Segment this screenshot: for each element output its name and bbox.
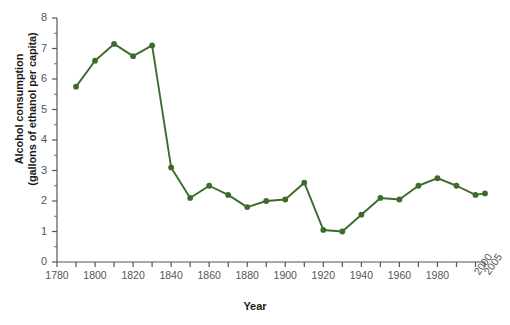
data-point xyxy=(320,227,326,233)
data-point xyxy=(339,229,345,235)
y-tick-label: 0 xyxy=(27,255,47,267)
data-point xyxy=(482,190,488,196)
y-tick-label: 7 xyxy=(27,42,47,54)
data-point xyxy=(244,204,250,210)
tick-marks-group xyxy=(52,18,485,267)
data-point xyxy=(282,197,288,203)
data-point xyxy=(206,183,212,189)
x-tick-label: 1980 xyxy=(417,269,457,281)
x-tick-label: 1940 xyxy=(341,269,381,281)
data-point xyxy=(225,192,231,198)
y-tick-label: 4 xyxy=(27,133,47,145)
data-point xyxy=(111,41,117,47)
data-point xyxy=(263,198,269,204)
x-tick-label: 1880 xyxy=(227,269,267,281)
y-tick-label: 2 xyxy=(27,194,47,206)
data-point xyxy=(473,192,479,198)
data-point xyxy=(92,58,98,64)
x-tick-label: 1960 xyxy=(379,269,419,281)
data-point xyxy=(187,195,193,201)
data-point xyxy=(454,183,460,189)
data-point xyxy=(358,212,364,218)
data-point xyxy=(301,180,307,186)
data-point-markers xyxy=(73,41,488,234)
x-tick-label: 1800 xyxy=(75,269,115,281)
x-tick-label: 1920 xyxy=(303,269,343,281)
chart-container: Alcohol consumption (gallons of ethanol … xyxy=(0,0,510,325)
data-point xyxy=(377,195,383,201)
caption-bleed xyxy=(0,319,510,325)
x-tick-label: 1840 xyxy=(151,269,191,281)
x-tick-label: 1900 xyxy=(265,269,305,281)
axes-group xyxy=(57,18,485,262)
data-series-line xyxy=(76,44,485,232)
data-point xyxy=(435,175,441,181)
y-tick-label: 3 xyxy=(27,164,47,176)
y-tick-label: 8 xyxy=(27,11,47,23)
x-tick-label: 1820 xyxy=(113,269,153,281)
y-tick-label: 1 xyxy=(27,225,47,237)
data-point xyxy=(73,84,79,90)
data-point xyxy=(149,43,155,49)
x-tick-label: 1780 xyxy=(37,269,77,281)
data-point xyxy=(397,197,403,203)
y-tick-label: 6 xyxy=(27,72,47,84)
data-point xyxy=(416,183,422,189)
data-point xyxy=(130,53,136,59)
y-tick-label: 5 xyxy=(27,103,47,115)
x-tick-label: 1860 xyxy=(189,269,229,281)
data-point xyxy=(168,165,174,171)
x-axis-title: Year xyxy=(0,300,510,312)
